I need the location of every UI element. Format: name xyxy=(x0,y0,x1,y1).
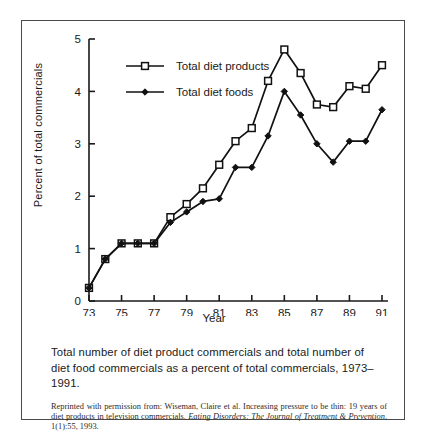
figure-page: 01234573757779818385878991Total diet pro… xyxy=(0,0,429,438)
data-point-marker xyxy=(330,104,337,111)
data-point-marker xyxy=(362,85,369,92)
data-point-marker xyxy=(142,89,148,95)
y-tick-label: 5 xyxy=(75,33,81,45)
figure-frame: 01234573757779818385878991Total diet pro… xyxy=(21,20,405,420)
x-axis-label: Year xyxy=(22,312,406,324)
chart-legend: Total diet productsTotal diet foods xyxy=(126,60,270,98)
data-point-marker xyxy=(297,70,304,77)
data-point-marker xyxy=(346,83,353,90)
credit-journal-title: Eating Disorders: The Journal of Treatme… xyxy=(188,412,385,421)
data-point-marker xyxy=(363,138,369,144)
y-tick-label: 4 xyxy=(75,86,82,98)
data-point-marker xyxy=(265,133,271,139)
data-point-marker xyxy=(216,196,222,202)
data-point-marker xyxy=(183,201,190,208)
legend-label-2: Total diet foods xyxy=(176,86,254,98)
series-line xyxy=(89,91,382,288)
data-point-marker xyxy=(281,46,288,53)
data-point-marker xyxy=(200,185,207,192)
figure-caption: Total number of diet product commercials… xyxy=(51,345,381,392)
y-tick-label: 0 xyxy=(75,295,81,307)
data-point-marker xyxy=(313,101,320,108)
series-2 xyxy=(86,88,385,291)
data-point-marker xyxy=(216,161,223,168)
data-point-marker xyxy=(379,62,386,69)
y-tick-label: 2 xyxy=(75,190,81,202)
y-tick-label: 3 xyxy=(75,138,81,150)
chart-area: 01234573757779818385878991Total diet pro… xyxy=(22,21,406,316)
figure-credit: Reprinted with permission from: Wiseman,… xyxy=(51,402,387,433)
data-point-marker xyxy=(232,138,239,145)
data-point-marker xyxy=(265,78,272,85)
data-point-marker xyxy=(232,164,238,170)
data-point-marker xyxy=(248,125,255,132)
y-tick-label: 1 xyxy=(75,243,81,255)
legend-label-1: Total diet products xyxy=(176,60,270,72)
data-point-marker xyxy=(249,164,255,170)
line-chart: 01234573757779818385878991Total diet pro… xyxy=(22,21,406,316)
data-point-marker xyxy=(379,107,385,113)
y-axis-label: Percent of total commercials xyxy=(32,55,44,215)
data-point-marker xyxy=(142,63,149,70)
